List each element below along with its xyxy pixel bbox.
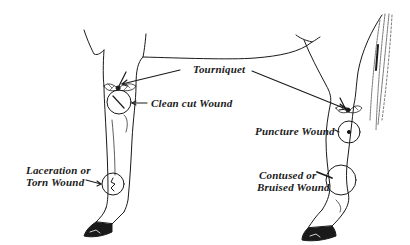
clean-cut-wound (107, 90, 131, 114)
label-contused-line1: Contused or (259, 170, 317, 181)
hind-fetlock-detail (336, 200, 341, 212)
tourniquet-leader-hind (252, 71, 346, 109)
label-laceration-line1: Laceration or (26, 165, 91, 176)
diagram-drawing (0, 0, 410, 245)
hind-tourniquet (336, 98, 362, 113)
contused-wound-circle (326, 165, 356, 195)
tail-strand-1 (376, 14, 385, 130)
label-puncture-wound: Puncture Wound (255, 126, 335, 137)
laceration-wound-circle (102, 173, 124, 195)
front-pastern-right (112, 212, 124, 224)
clean-cut-wound-mark (113, 96, 124, 108)
label-clean-cut-wound: Clean cut Wound (151, 98, 232, 109)
front-leg-knee-detail (124, 115, 127, 132)
label-tourniquet: Tourniquet (193, 64, 245, 75)
front-hoof (84, 222, 112, 237)
laceration-wound-mark (111, 178, 115, 191)
tail-shading (376, 45, 378, 70)
puncture-wound (338, 121, 360, 143)
hind-pastern-left (308, 210, 322, 228)
front-leg-tendon (112, 120, 115, 175)
front-leg-upper-outline (84, 30, 104, 55)
hind-pastern-right (332, 212, 344, 226)
contused-leader (317, 172, 332, 178)
horse-leg-wound-diagram: Tourniquet Clean cut Wound Puncture Woun… (0, 0, 410, 245)
label-laceration-line2: Torn Wound (26, 177, 84, 188)
puncture-wound-mark (347, 130, 350, 133)
front-pastern-left (96, 208, 106, 222)
hind-hoof (302, 226, 336, 241)
contused-wound (326, 165, 356, 195)
label-contused-line2: Bruised Wound (257, 182, 330, 193)
laceration-wound (102, 173, 124, 195)
front-tourniquet-knot (116, 86, 120, 90)
tourniquet-leader-front (122, 70, 180, 84)
front-leg-left-edge (103, 50, 108, 208)
belly-line (143, 37, 320, 59)
hind-tourniquet-knot (346, 108, 350, 112)
